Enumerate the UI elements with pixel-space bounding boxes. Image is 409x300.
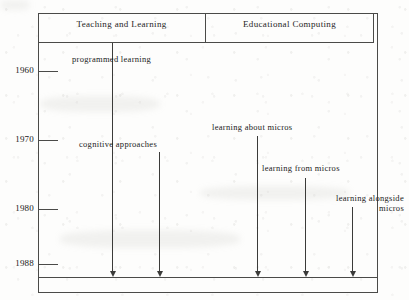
- time-axis: [38, 43, 39, 277]
- event-arrowhead-programmed-learning: [110, 271, 116, 277]
- event-label-learning-about-micros: learning about micros: [212, 122, 322, 132]
- event-stem-learning-alongside-micros: [352, 207, 353, 271]
- column-header-teaching-and-learning: Teaching and Learning: [38, 19, 205, 29]
- event-arrowhead-learning-alongside-micros: [350, 271, 356, 277]
- event-arrowhead-learning-from-micros: [303, 271, 309, 277]
- event-stem-learning-about-micros: [257, 136, 258, 271]
- figure-canvas: Teaching and Learning Educational Comput…: [0, 0, 409, 300]
- axis-year-label-1988: 1988: [0, 258, 34, 268]
- axis-tick-1980: [38, 209, 58, 210]
- axis-year-label-1980: 1980: [0, 203, 34, 213]
- event-label-learning-alongside-micros: learning alongside micros: [296, 193, 404, 213]
- paper-smudge: [0, 0, 30, 10]
- axis-tick-1960: [38, 71, 58, 72]
- event-label-cognitive-approaches: cognitive approaches: [79, 139, 189, 149]
- event-stem-cognitive-approaches: [159, 152, 160, 271]
- event-stem-learning-from-micros: [305, 178, 306, 271]
- axis-tick-1988: [38, 264, 58, 265]
- timeline-baseline: [38, 277, 378, 278]
- event-label-programmed-learning: programmed learning: [72, 54, 172, 64]
- column-header-educational-computing: Educational Computing: [205, 19, 374, 29]
- event-arrowhead-learning-about-micros: [255, 271, 261, 277]
- event-arrowhead-cognitive-approaches: [157, 271, 163, 277]
- event-stem-programmed-learning: [112, 43, 113, 271]
- axis-year-label-1970: 1970: [0, 134, 34, 144]
- axis-tick-1970: [38, 140, 58, 141]
- axis-year-label-1960: 1960: [0, 65, 34, 75]
- event-label-learning-from-micros: learning from micros: [262, 163, 372, 173]
